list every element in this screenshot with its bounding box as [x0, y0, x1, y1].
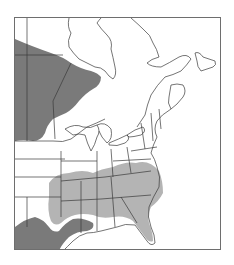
map-frame: [14, 17, 221, 250]
range-map: [15, 18, 221, 250]
map-footer-space: [0, 252, 234, 265]
